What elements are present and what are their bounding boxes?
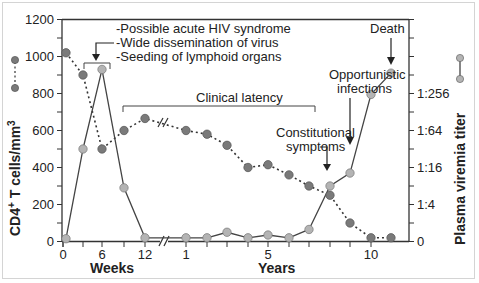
svg-text:12: 12 [138,247,152,262]
viremia-data-point [98,65,106,73]
viremia-data-point [264,231,272,239]
cd4-data-point [223,141,231,149]
viremia-legend-marker-icon [456,54,463,61]
svg-text:infections: infections [337,81,392,96]
cd4-legend-marker-icon [11,84,18,91]
svg-text:1:16: 1:16 [417,160,442,175]
cd4-data-point [203,130,211,138]
cd4-data-point [62,49,70,57]
svg-text:CD4+ T cells/mm3: CD4+ T cells/mm3 [6,120,23,236]
clinical-latency-annotation: Clinical latency [123,90,315,112]
constitutional-symptoms-annotation: Constitutional symptoms [276,125,355,171]
x-axis-title-years: Years [258,260,296,276]
viremia-data-point [244,234,252,242]
arrow-down-icon [323,164,331,171]
arrow-down-icon [92,54,100,61]
viremia-data-point [223,228,231,236]
left-axis-title: CD4+ T cells/mm3 [6,56,23,236]
svg-text:1:256: 1:256 [417,86,450,101]
arrow-down-icon [346,137,354,145]
svg-text:Opportunistic: Opportunistic [329,67,406,82]
svg-text:1:4: 1:4 [417,197,435,212]
x-axis-ticks [63,242,371,248]
svg-text:1200: 1200 [25,12,54,27]
cd4-data-point [367,234,375,242]
svg-text:1:64: 1:64 [417,123,442,138]
cd4-data-point [305,182,313,190]
viremia-data-point [62,235,70,243]
right-axis-title: Plasma viremia titer [452,54,468,245]
death-annotation: Death [370,21,405,65]
svg-text:-Seeding of lymphoid organs: -Seeding of lymphoid organs [116,49,282,64]
viremia-legend-marker-icon [456,75,463,82]
svg-text:-Wide dissemination of virus: -Wide dissemination of virus [116,35,279,50]
left-axis-ticks [57,20,62,242]
viremia-data-point [285,234,293,242]
viremia-data-point [141,234,149,242]
svg-text:Constitutional: Constitutional [276,125,355,140]
svg-text:1: 1 [182,247,189,262]
cd4-data-point [346,219,354,227]
svg-text:symptoms: symptoms [286,139,346,154]
cd4-data-point [141,114,149,122]
svg-text:Clinical latency: Clinical latency [196,90,283,105]
cd4-data-point [264,161,272,169]
series-break-icon [158,118,168,127]
svg-text:600: 600 [32,123,54,138]
cd4-data-point [285,171,293,179]
arrow-down-icon [387,57,395,65]
cd4-data-point [120,126,128,134]
cd4-data-point [326,191,334,199]
x-axis-title-weeks: Weeks [90,260,134,276]
svg-text:0: 0 [59,247,66,262]
svg-text:Death: Death [370,21,405,36]
svg-text:0: 0 [47,234,54,249]
cd4-data-point [98,145,106,153]
viremia-data-point [326,182,334,190]
viremia-data-point [79,145,87,153]
right-axis-labels: 01:41:161:641:256 [417,86,450,249]
cd4-data-point [182,126,190,134]
svg-text:800: 800 [32,86,54,101]
svg-text:200: 200 [32,197,54,212]
svg-text:400: 400 [32,160,54,175]
viremia-data-point [182,234,190,242]
svg-text:Plasma viremia titer: Plasma viremia titer [452,112,468,245]
svg-text:-Possible acute HIV syndrome: -Possible acute HIV syndrome [116,21,291,36]
viremia-data-point [346,169,354,177]
acute-phase-annotation: -Possible acute HIV syndrome -Wide disse… [84,21,291,69]
cd4-data-point [244,163,252,171]
cd4-legend-marker-icon [11,56,18,63]
svg-text:10: 10 [364,247,378,262]
viremia-data-point [120,184,128,192]
viremia-data-point [305,225,313,233]
cd4-data-point [79,71,87,79]
viremia-data-point [203,234,211,242]
left-axis-labels: 020040060080010001200 [25,12,54,249]
right-axis-ticks [409,20,414,242]
cd4-data-point [387,234,395,242]
svg-text:1000: 1000 [25,49,54,64]
svg-text:0: 0 [417,234,424,249]
hiv-course-chart: 020040060080010001200 01:41:161:641:256 … [0,0,479,283]
